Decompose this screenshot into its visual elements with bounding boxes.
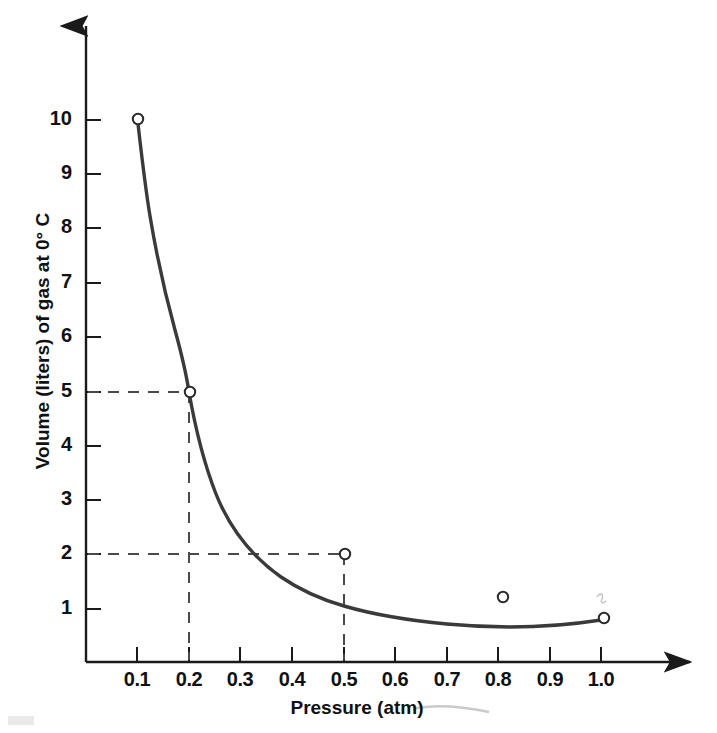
y-tick-label-10: 10 [32,107,72,130]
x-tick-label-0: 0.1 [110,668,164,691]
data-point-0.2-5[interactable] [185,387,195,397]
data-point-0.5-2[interactable] [340,549,350,559]
data-curve [138,120,602,628]
x-tick-label-6: 0.7 [420,668,474,691]
scan-artifacts [413,594,606,712]
data-point-0.1-10[interactable] [133,114,143,124]
x-tick-label-1: 0.2 [162,668,216,691]
guide-0.5-2 [88,554,344,660]
page-scan-smudge [8,716,34,725]
x-tick-label-8: 0.9 [523,668,577,691]
y-tick-label-1: 1 [32,596,72,619]
data-point-1.0-0.9[interactable] [599,613,609,623]
y-axis-title: Volume (liters) of gas at 0° C [32,191,54,491]
x-tick-label-4: 0.5 [317,668,371,691]
guide-0.2-5 [88,392,189,660]
x-axis-ticks [137,647,601,662]
data-point-markers [133,114,609,623]
x-tick-label-5: 0.6 [368,668,422,691]
y-tick-label-2: 2 [32,541,72,564]
x-tick-label-7: 0.8 [471,668,525,691]
chart-plot-area [0,0,717,733]
data-point-0.8-1.25[interactable] [498,592,508,602]
x-tick-label-3: 0.4 [265,668,319,691]
x-tick-label-9: 1.0 [574,668,628,691]
y-tick-label-9: 9 [32,161,72,184]
y-axis-ticks [86,120,101,609]
x-tick-label-2: 0.3 [213,668,267,691]
x-axis-title: Pressure (atm) [187,697,527,719]
boyles-law-figure: 0.1 0.2 0.3 0.4 0.5 0.6 0.7 0.8 0.9 1.0 … [0,0,717,733]
